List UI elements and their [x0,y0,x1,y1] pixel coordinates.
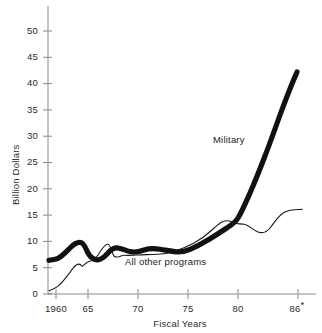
chart-plot-area [0,0,322,333]
x-axis-title: Fiscal Years [110,318,250,329]
y-tick-label-35: 35 [14,104,38,115]
y-axis-title: Billion Dollars [10,144,21,205]
x-tick-label-86: 86* [284,303,310,314]
y-tick-label-15: 15 [14,209,38,220]
series-annotation-all-other-programs: All other programs [125,256,206,267]
x-tick-86-text: 86 [290,303,301,314]
x-tick-86-asterisk: * [301,299,305,310]
y-tick-label-45: 45 [14,51,38,62]
y-tick-label-10: 10 [14,235,38,246]
series-annotation-military: Military [213,134,245,145]
x-tick-label-65: 65 [76,303,100,314]
y-tick-label-0: 0 [14,288,38,299]
y-tick-label-40: 40 [14,77,38,88]
x-tick-label-75: 75 [176,303,200,314]
y-tick-label-30: 30 [14,130,38,141]
x-tick-label-80: 80 [226,303,250,314]
y-tick-label-50: 50 [14,25,38,36]
x-tick-label-1960: 1960 [36,303,76,314]
chart-container: 50 45 40 35 30 25 20 15 10 5 0 1960 65 7… [0,0,322,333]
x-tick-label-70: 70 [126,303,150,314]
y-tick-label-5: 5 [14,262,38,273]
